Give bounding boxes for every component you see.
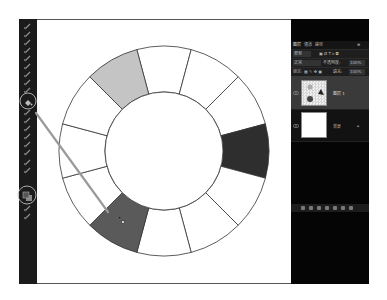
highlight-circle-color-swatch xyxy=(18,186,36,204)
highlight-circle-paint-bucket xyxy=(20,93,36,109)
canvas-overlay xyxy=(0,0,387,300)
color-wheel[interactable] xyxy=(59,46,269,256)
color-wheel-center xyxy=(105,92,223,210)
